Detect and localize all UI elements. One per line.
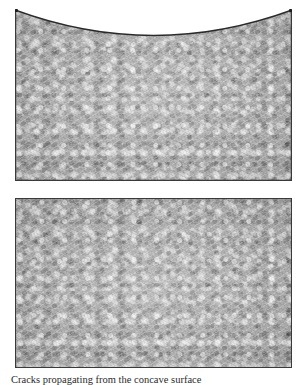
- upper-panel-clip: [15, 9, 292, 181]
- lower-specimen-panel: [15, 198, 292, 368]
- figure-caption: Cracks propagating from the concave surf…: [11, 374, 299, 385]
- upper-panel-texture: [15, 9, 292, 181]
- figure-plate-page: Cracks propagating from the concave surf…: [0, 0, 307, 385]
- lower-panel-texture: [16, 199, 291, 367]
- upper-specimen-panel: [15, 9, 292, 181]
